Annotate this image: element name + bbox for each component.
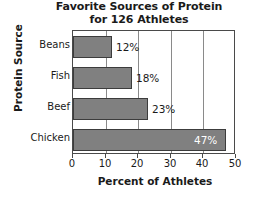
category-label-chicken: Chicken [18,132,70,143]
bar-value-label-beef: 23% [152,104,175,115]
tick-label-20: 20 [125,158,149,170]
bar-beans [73,36,112,58]
chart-title: Favorite Sources of Protein for 126 Athl… [30,1,248,26]
bar-value-label-beans: 12% [116,42,139,53]
bar-chart-figure: Favorite Sources of Protein for 126 Athl… [0,0,254,202]
category-label-fish: Fish [18,70,70,81]
x-axis-label: Percent of Athletes [60,175,250,187]
tick-label-50: 50 [223,158,247,170]
tick-label-40: 40 [190,158,214,170]
bar-fish [73,67,132,89]
chart-title-line-2: for 126 Athletes [30,14,248,27]
category-axis-labels: Beans Fish Beef Chicken [18,31,70,153]
category-label-beans: Beans [18,39,70,50]
x-axis-tick-labels: 01020304050 [72,158,235,172]
bars-group: 12%18%23%47% [73,31,234,153]
chart-title-line-1: Favorite Sources of Protein [30,1,248,14]
plot-area: 12%18%23%47% [72,30,235,154]
bar-beef [73,98,148,120]
tick-label-0: 0 [60,158,84,170]
bar-value-label-fish: 18% [136,73,159,84]
category-label-beef: Beef [18,101,70,112]
tick-label-10: 10 [93,158,117,170]
tick-label-30: 30 [158,158,182,170]
bar-value-label-chicken: 47% [194,135,217,146]
